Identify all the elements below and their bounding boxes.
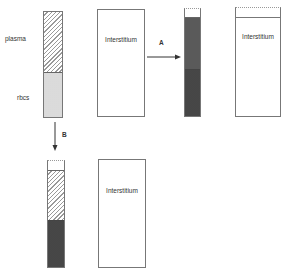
interstitium-expansion-line (236, 17, 280, 18)
interstitium-label: Interstitium (99, 187, 145, 194)
rbcs-segment (48, 221, 64, 267)
interstitium-label: Interstitium (236, 33, 280, 40)
after-a-interstitium-box: Interstitium (235, 7, 281, 117)
arrow-a-label: A (159, 39, 164, 46)
plasma-label: plasma (5, 35, 26, 42)
after-a-blood-column (184, 8, 201, 117)
initial-blood-column (43, 11, 63, 118)
initial-interstitium-box: Interstitium (97, 9, 145, 117)
arrow-b-icon (51, 122, 59, 152)
rbcs-label: rbcs (17, 94, 29, 101)
rbcs-segment (44, 73, 62, 117)
arrow-b-label: B (62, 131, 67, 138)
lower-dotted-segment (185, 70, 200, 116)
empty-top-segment (48, 161, 64, 171)
plasma-segment (44, 12, 62, 73)
empty-top-segment (185, 9, 200, 18)
after-b-interstitium-box: Interstitium (98, 159, 146, 268)
interstitium-label: Interstitium (98, 36, 144, 43)
upper-shaded-segment (185, 18, 200, 70)
plasma-segment (48, 171, 64, 221)
after-b-blood-column (47, 160, 65, 268)
arrow-a-icon (146, 53, 182, 61)
